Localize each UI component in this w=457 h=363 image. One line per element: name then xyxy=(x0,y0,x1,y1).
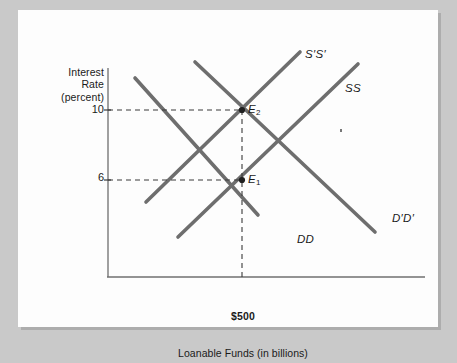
y-tick-label-6: 6 xyxy=(78,171,104,184)
curve-label-dd: DD xyxy=(297,233,314,247)
figure-card xyxy=(18,10,438,327)
x-axis-value-label: $500 xyxy=(148,310,338,322)
curve-label-d-prime-d-prime: D′D′ xyxy=(392,212,414,226)
scan-artifact-speck xyxy=(340,129,342,132)
equilibrium-label-e2-letter: E xyxy=(248,103,256,115)
curve-label-ss: SS xyxy=(345,82,361,96)
equilibrium-label-e2: E2 xyxy=(248,103,260,117)
y-axis-title: InterestRate(percent) xyxy=(32,66,104,103)
y-tick-label-10: 10 xyxy=(78,103,104,116)
y-axis-title-line3: (percent) xyxy=(61,91,104,103)
equilibrium-label-e1: E1 xyxy=(248,173,260,187)
x-axis-title: Loanable Funds (in billions) xyxy=(148,347,338,359)
y-axis-title-line1: Interest xyxy=(68,66,104,78)
equilibrium-label-e1-letter: E xyxy=(248,173,256,185)
x-axis-caption: $500 Loanable Funds (in billions) xyxy=(148,285,338,363)
curve-label-s-prime-s-prime: S′S′ xyxy=(305,48,326,62)
y-axis-title-line2: Rate xyxy=(81,78,104,90)
equilibrium-label-e2-subscript: 2 xyxy=(256,108,260,117)
equilibrium-label-e1-subscript: 1 xyxy=(256,178,260,187)
